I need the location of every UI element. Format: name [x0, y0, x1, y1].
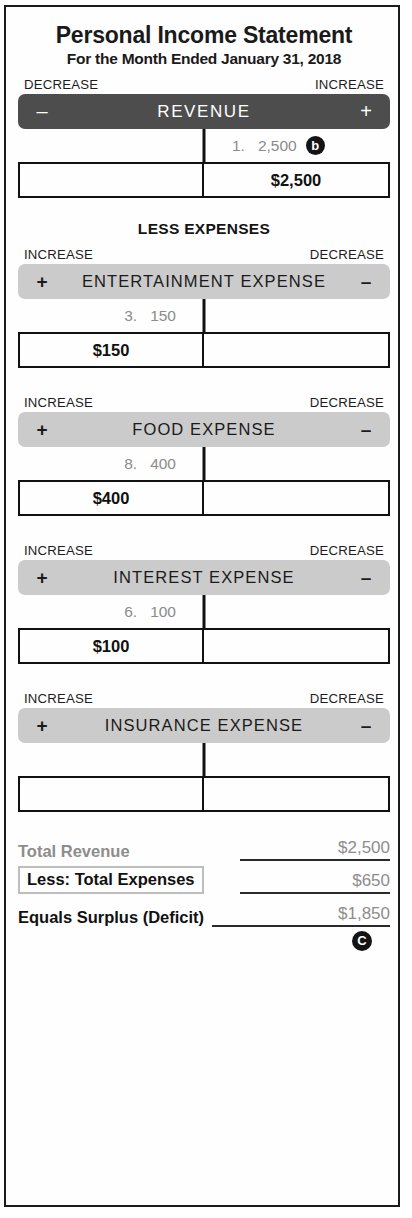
credit-entries[interactable]	[204, 299, 390, 332]
balance-right[interactable]: $2,500	[204, 164, 388, 196]
account-bar-interest-expense[interactable]: + INTEREST EXPENSE –	[18, 560, 390, 595]
total-expenses-amount[interactable]: $650	[240, 871, 390, 894]
balance-right[interactable]	[204, 630, 388, 662]
left-direction-label: INCREASE	[24, 691, 93, 706]
t-account-entertainment-expense: INCREASE DECREASE + ENTERTAINMENT EXPENS…	[18, 247, 390, 368]
balance-left[interactable]: $150	[20, 334, 204, 366]
account-name-label: INSURANCE EXPENSE	[52, 716, 356, 735]
balance-row: $400	[18, 480, 390, 516]
minus-icon[interactable]: –	[356, 715, 376, 737]
account-bar-entertainment-expense[interactable]: + ENTERTAINMENT EXPENSE –	[18, 264, 390, 299]
total-revenue-amount[interactable]: $2,500	[240, 838, 390, 861]
annotation-badge-b: b	[306, 136, 325, 155]
summary-section: Total Revenue $2,500 Less: Total Expense…	[18, 828, 390, 951]
statement-page-frame: Personal Income Statement For the Month …	[4, 5, 400, 1207]
summary-row-total-revenue: Total Revenue $2,500	[18, 828, 390, 861]
balance-left[interactable]	[20, 164, 204, 196]
entry-area: 3. 150	[18, 299, 390, 332]
surplus-amount[interactable]: $1,850	[212, 904, 390, 927]
plus-icon[interactable]: +	[32, 715, 52, 737]
annotation-badge-c: C	[352, 931, 372, 951]
summary-row-total-expenses: Less: Total Expenses $650	[18, 861, 390, 894]
entry-ref: 1.	[232, 137, 245, 155]
balance-left[interactable]: $400	[20, 482, 204, 514]
balance-row: $150	[18, 332, 390, 368]
direction-row: INCREASE DECREASE	[18, 543, 390, 560]
credit-entries[interactable]	[204, 595, 390, 628]
t-account-food-expense: INCREASE DECREASE + FOOD EXPENSE – 8. 40…	[18, 395, 390, 516]
t-account-interest-expense: INCREASE DECREASE + INTEREST EXPENSE – 6…	[18, 543, 390, 664]
account-name-label: ENTERTAINMENT EXPENSE	[52, 272, 356, 291]
annotation-badge-row: C	[18, 931, 390, 951]
spacer	[18, 664, 390, 682]
statement-content: Personal Income Statement For the Month …	[18, 13, 390, 951]
plus-icon[interactable]: +	[356, 100, 376, 123]
direction-row: INCREASE DECREASE	[18, 691, 390, 708]
page-title: Personal Income Statement	[18, 22, 390, 48]
entry-ref: 8.	[124, 455, 137, 473]
debit-entries[interactable]: 6. 100	[18, 595, 204, 628]
left-direction-label: DECREASE	[24, 77, 98, 92]
credit-entries[interactable]	[204, 447, 390, 480]
left-direction-label: INCREASE	[24, 247, 93, 262]
balance-right[interactable]	[204, 482, 388, 514]
balance-right[interactable]	[204, 778, 388, 810]
plus-icon[interactable]: +	[32, 419, 52, 441]
credit-entries[interactable]	[204, 743, 390, 776]
direction-row: INCREASE DECREASE	[18, 395, 390, 412]
entry-amount: 400	[150, 455, 176, 473]
account-name-label: INTEREST EXPENSE	[52, 568, 356, 587]
entry-area: 8. 400	[18, 447, 390, 480]
debit-entries[interactable]	[18, 743, 204, 776]
right-direction-label: DECREASE	[310, 691, 384, 706]
account-bar-revenue[interactable]: – REVENUE +	[18, 94, 390, 129]
right-direction-label: DECREASE	[310, 395, 384, 410]
balance-row: $2,500	[18, 162, 390, 198]
debit-entries[interactable]: 3. 150	[18, 299, 204, 332]
left-direction-label: INCREASE	[24, 395, 93, 410]
section-label-less-expenses: LESS EXPENSES	[18, 220, 390, 238]
spacer	[18, 516, 390, 534]
total-revenue-label: Total Revenue	[18, 842, 130, 861]
account-name-label: REVENUE	[52, 102, 356, 122]
balance-left[interactable]	[20, 778, 204, 810]
right-direction-label: INCREASE	[315, 77, 384, 92]
spacer	[18, 368, 390, 386]
direction-row: INCREASE DECREASE	[18, 247, 390, 264]
summary-row-surplus: Equals Surplus (Deficit) $1,850	[18, 894, 390, 927]
minus-icon[interactable]: –	[356, 567, 376, 589]
debit-entries[interactable]: 8. 400	[18, 447, 204, 480]
plus-icon[interactable]: +	[32, 271, 52, 293]
surplus-label: Equals Surplus (Deficit)	[18, 908, 204, 927]
entry-ref: 6.	[124, 603, 137, 621]
account-bar-insurance-expense[interactable]: + INSURANCE EXPENSE –	[18, 708, 390, 743]
debit-entries[interactable]	[18, 129, 204, 162]
balance-left[interactable]: $100	[20, 630, 204, 662]
right-direction-label: DECREASE	[310, 247, 384, 262]
entry-area: 6. 100	[18, 595, 390, 628]
account-bar-food-expense[interactable]: + FOOD EXPENSE –	[18, 412, 390, 447]
entry-area	[18, 743, 390, 776]
right-direction-label: DECREASE	[310, 543, 384, 558]
direction-row: DECREASE INCREASE	[18, 77, 390, 94]
plus-icon[interactable]: +	[32, 567, 52, 589]
left-direction-label: INCREASE	[24, 543, 93, 558]
account-name-label: FOOD EXPENSE	[52, 420, 356, 439]
t-account-insurance-expense: INCREASE DECREASE + INSURANCE EXPENSE –	[18, 691, 390, 812]
balance-row: $100	[18, 628, 390, 664]
minus-icon[interactable]: –	[356, 271, 376, 293]
page-subtitle: For the Month Ended January 31, 2018	[18, 50, 390, 68]
entry-amount: 100	[150, 603, 176, 621]
entry-amount: 2,500	[258, 137, 297, 155]
entry-ref: 3.	[124, 307, 137, 325]
total-expenses-label: Less: Total Expenses	[18, 866, 204, 894]
minus-icon[interactable]: –	[32, 100, 52, 123]
minus-icon[interactable]: –	[356, 419, 376, 441]
balance-row	[18, 776, 390, 812]
entry-amount: 150	[150, 307, 176, 325]
credit-entries[interactable]: 1. 2,500 b	[204, 129, 390, 162]
balance-right[interactable]	[204, 334, 388, 366]
t-account-revenue: DECREASE INCREASE – REVENUE + 1. 2,500 b…	[18, 77, 390, 198]
entry-area: 1. 2,500 b	[18, 129, 390, 162]
